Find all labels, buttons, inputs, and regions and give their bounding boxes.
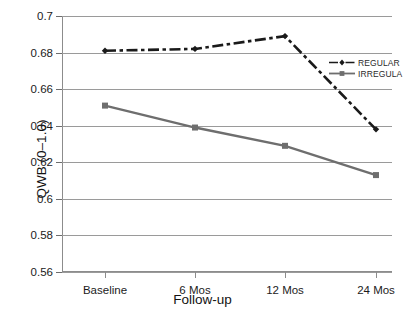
clipped-top-caption [0, 0, 405, 2]
y-tick-label: 0.64 [31, 120, 53, 132]
chart-screenshot: QWB (0–1.0) 0.70.680.660.640.620.60.580.… [0, 0, 405, 317]
legend-key-irregular-icon [329, 68, 355, 79]
y-tick-label: 0.6 [37, 193, 53, 205]
plot-area: 0.70.680.660.640.620.60.580.56 Baseline6… [62, 16, 392, 272]
data-point-marker [282, 33, 288, 39]
data-point-marker [192, 125, 198, 131]
x-tick [285, 272, 286, 278]
y-tick-label: 0.66 [31, 83, 53, 95]
x-tick [376, 272, 377, 278]
legend-label-irregular: IRREGULA [358, 69, 402, 79]
y-tick-label: 0.56 [31, 266, 53, 278]
y-tick [56, 272, 62, 273]
legend-label-regular: REGULAR [358, 58, 400, 68]
data-point-marker [102, 103, 108, 109]
data-point-marker [282, 143, 288, 149]
series-plot [62, 16, 392, 272]
data-point-marker [373, 172, 379, 178]
y-gridline [62, 272, 392, 273]
series-line-irregula [105, 106, 376, 175]
y-tick-label: 0.62 [31, 156, 53, 168]
x-axis-title: Follow-up [0, 292, 405, 307]
legend-item-regular: REGULAR [329, 57, 405, 68]
y-tick-label: 0.7 [37, 10, 53, 22]
data-point-marker [192, 46, 198, 52]
chart-legend: REGULAR IRREGULA [329, 57, 405, 79]
legend-key-regular-icon [329, 57, 355, 68]
legend-item-irregular: IRREGULA [329, 68, 405, 79]
x-tick [105, 272, 106, 278]
data-point-marker [102, 48, 108, 54]
y-tick-label: 0.58 [31, 229, 53, 241]
y-tick-label: 0.68 [31, 47, 53, 59]
x-tick [195, 272, 196, 278]
